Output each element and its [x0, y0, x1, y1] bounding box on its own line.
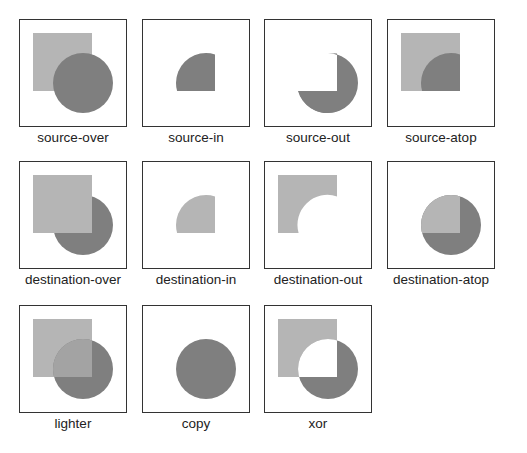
- destination-atop-illustration: [388, 162, 494, 268]
- canvas-box: [142, 305, 250, 413]
- mode-label: lighter: [11, 416, 135, 431]
- destination-out-illustration: [265, 162, 371, 268]
- xor-illustration: [265, 306, 371, 412]
- mode-label: source-atop: [379, 130, 503, 145]
- canvas-box: [264, 161, 372, 269]
- canvas-box: [142, 161, 250, 269]
- mode-label: destination-over: [11, 272, 135, 287]
- mode-label: destination-in: [134, 272, 258, 287]
- source-in-illustration: [143, 20, 249, 126]
- canvas-box: [387, 19, 495, 127]
- source-over-illustration: [20, 20, 126, 126]
- mode-label: source-out: [256, 130, 380, 145]
- canvas-box: [264, 19, 372, 127]
- destination-in-illustration: [143, 162, 249, 268]
- canvas-box: [19, 19, 127, 127]
- source-atop-illustration: [388, 20, 494, 126]
- canvas-box: [142, 19, 250, 127]
- canvas-box: [387, 161, 495, 269]
- canvas-box: [19, 305, 127, 413]
- mode-label: destination-out: [256, 272, 380, 287]
- canvas-box: [264, 305, 372, 413]
- destination-over-illustration: [20, 162, 126, 268]
- source-out-illustration: [265, 20, 371, 126]
- canvas-box: [19, 161, 127, 269]
- mode-label: destination-atop: [379, 272, 503, 287]
- mode-label: source-in: [134, 130, 258, 145]
- copy-illustration: [143, 306, 249, 412]
- mode-label: xor: [256, 416, 380, 431]
- lighter-illustration: [20, 306, 126, 412]
- mode-label: source-over: [11, 130, 135, 145]
- mode-label: copy: [134, 416, 258, 431]
